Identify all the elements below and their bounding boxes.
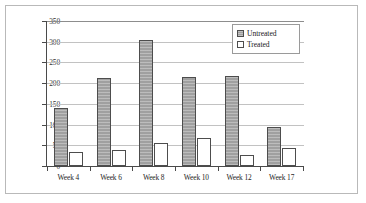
bar-treated-week-10[interactable] — [197, 138, 211, 166]
legend-label-treated: Treated — [247, 40, 270, 49]
chart-figure: c-DCE Concentration (mg/L) 0501001502002… — [0, 0, 366, 203]
legend-label-untreated: Untreated — [247, 29, 277, 38]
bar-treated-week-8[interactable] — [154, 143, 168, 166]
x-axis-tick-label: Week 4 — [47, 173, 90, 187]
x-axis-tick-label: Week 17 — [260, 173, 303, 187]
legend: Untreated Treated — [232, 24, 300, 54]
x-axis-tick — [90, 166, 91, 171]
legend-swatch-untreated-icon — [237, 30, 244, 37]
bar-group — [175, 21, 218, 166]
bar-untreated-week-10[interactable] — [182, 77, 196, 166]
x-axis-tick — [132, 166, 133, 171]
bar-group — [90, 21, 133, 166]
x-axis-tick — [47, 166, 48, 171]
bar-treated-week-6[interactable] — [112, 150, 126, 166]
bar-untreated-week-4[interactable] — [54, 108, 68, 166]
bar-treated-week-4[interactable] — [69, 152, 83, 166]
x-axis-tick-label: Week 8 — [132, 173, 175, 187]
legend-swatch-treated-icon — [237, 41, 244, 48]
x-axis-tick — [260, 166, 261, 171]
bar-untreated-week-17[interactable] — [267, 127, 281, 166]
bar-group — [132, 21, 175, 166]
bar-treated-week-12[interactable] — [240, 155, 254, 166]
bar-untreated-week-12[interactable] — [225, 76, 239, 166]
x-axis-tick-label: Week 12 — [218, 173, 261, 187]
bar-untreated-week-8[interactable] — [139, 40, 153, 166]
legend-item-untreated[interactable]: Untreated — [237, 28, 295, 39]
x-axis-tick — [175, 166, 176, 171]
bar-treated-week-17[interactable] — [282, 148, 296, 166]
x-axis-tick-label: Week 10 — [175, 173, 218, 187]
x-axis-tick-labels: Week 4Week 6Week 8Week 10Week 12Week 17 — [47, 173, 303, 187]
x-axis-tick — [218, 166, 219, 171]
bar-untreated-week-6[interactable] — [97, 78, 111, 166]
legend-item-treated[interactable]: Treated — [237, 39, 295, 50]
x-axis-tick-label: Week 6 — [90, 173, 133, 187]
x-axis-ticks — [47, 166, 303, 172]
x-axis-tick — [303, 166, 304, 171]
bar-group — [47, 21, 90, 166]
